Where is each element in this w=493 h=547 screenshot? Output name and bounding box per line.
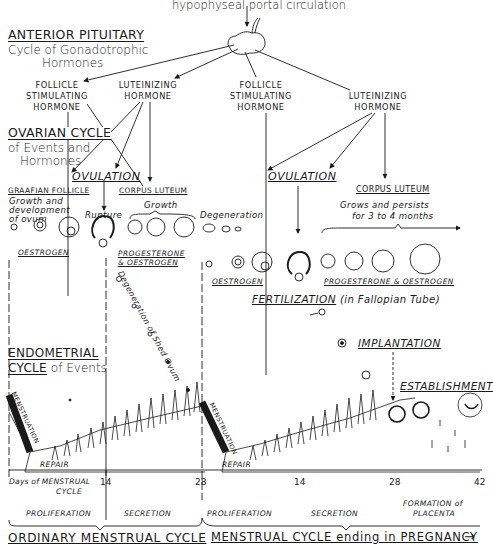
arrow-right-icon: →	[464, 530, 475, 543]
phase-secretion-1: SECRETION	[124, 510, 171, 518]
phase-proliferation-2: PROLIFERATION	[207, 510, 272, 518]
ovulation-label-left: OVULATION	[72, 171, 140, 182]
oestrogen-label-right: OESTROGEN	[212, 278, 263, 285]
follicle-sequence-right	[206, 244, 440, 281]
graafian-note-3: of ovum	[9, 215, 47, 224]
axis-tick-14-b: 14	[294, 478, 305, 487]
repair-label-1: REPAIR	[40, 461, 69, 469]
endometrial-title: ENDOMETRIAL	[8, 347, 99, 359]
oestrogen-label-left: OESTROGEN	[18, 249, 69, 256]
axis-tick-28-a: 28	[195, 478, 206, 487]
ovarian-subtitle-1: of Events and	[8, 142, 90, 154]
degeneration-label: Degeneration	[200, 211, 263, 220]
ordinary-cycle-label: ORDINARY MENSTRUAL CYCLE	[8, 532, 206, 544]
fsh-label-left: FOLLICLESTIMULATINGHORMONE	[22, 80, 92, 113]
ovulation-label-right: OVULATION	[268, 171, 336, 182]
progesterone-label-left-2: & OESTROGEN	[118, 259, 178, 266]
establishment-label: ESTABLISHMENT	[400, 381, 493, 392]
placenta-label-2: PLACENTA	[413, 510, 455, 518]
pituitary-subtitle-2: Hormones	[42, 57, 103, 69]
phase-proliferation-1: PROLIFERATION	[26, 510, 91, 518]
growth-label: Growth	[144, 201, 178, 210]
axis-tick-28-b: 28	[389, 478, 400, 487]
progesterone-label-left-1: PROGESTERONE	[118, 250, 185, 257]
endometrium-right	[222, 390, 482, 472]
ovarian-cycle-title: OVARIAN CYCLE	[8, 127, 111, 140]
endometrial-subtitle: CYCLE of Events	[8, 362, 107, 374]
corpus-luteum-label-right: CORPUS LUTEUM	[356, 186, 430, 194]
progesterone-label-right: PROGESTERONE & OESTROGEN	[324, 278, 454, 285]
corpus-luteum-label-left: CORPUS LUTEUM	[119, 187, 187, 194]
persist-note-2: for 3 to 4 months	[352, 212, 433, 221]
lh-label-right: LUTEINIZINGHORMONE	[342, 91, 414, 113]
graafian-follicle-label: GRAAFIAN FOLLICLE	[8, 187, 89, 194]
phase-secretion-2: SECRETION	[311, 510, 358, 518]
fsh-label-right: FOLLICLESTIMULATINGHORMONE	[224, 80, 298, 113]
fertilization-label: FERTILIZATION	[252, 294, 336, 305]
endometrium-left	[9, 382, 205, 472]
placenta-label-1: FORMATION of	[403, 500, 463, 508]
axis-tick-42: 42	[474, 478, 485, 487]
rupture-label: Rupture	[85, 211, 122, 220]
axis-label-2: CYCLE	[56, 488, 82, 496]
persist-note-1: Grows and persists	[340, 201, 429, 210]
axis-label-1: Days of MENSTRUAL	[9, 478, 90, 486]
portal-circulation-label: hypophyseal portal circulation	[172, 0, 346, 12]
repair-label-2: REPAIR	[222, 461, 251, 469]
pituitary-gland-icon	[228, 6, 265, 54]
axis-tick-14-a: 14	[100, 478, 111, 487]
anterior-pituitary-title: ANTERIOR PITUITARY	[8, 29, 144, 42]
ovarian-subtitle-2: Hormones	[20, 155, 81, 167]
lh-label-left: LUTEINIZINGHORMONE	[112, 80, 184, 102]
implantation-label: IMPLANTATION	[358, 338, 441, 349]
pituitary-subtitle-1: Cycle of Gonadotrophic	[8, 44, 148, 56]
pregnancy-cycle-label: MENSTRUAL CYCLE ending in PREGNANCY	[211, 532, 478, 544]
fertilization-note: (in Fallopian Tube)	[340, 295, 440, 305]
